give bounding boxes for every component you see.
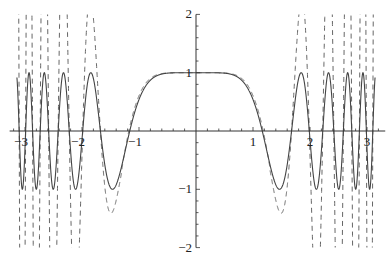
x-tick-label: −3: [14, 134, 28, 149]
x-tick-label: −1: [128, 134, 142, 149]
y-tick-label: −2: [178, 240, 192, 255]
y-tick-label: 2: [186, 6, 193, 21]
y-tick-label: 1: [186, 65, 193, 80]
x-tick-label: 2: [307, 134, 314, 149]
x-tick-label: −2: [71, 134, 85, 149]
x-tick-label: 1: [250, 134, 257, 149]
x-tick-label: 3: [364, 134, 371, 149]
plot-area: −3−2−1123−2−112: [0, 0, 391, 263]
axes: −3−2−1123−2−112: [10, 6, 386, 254]
y-tick-label: −1: [178, 181, 192, 196]
